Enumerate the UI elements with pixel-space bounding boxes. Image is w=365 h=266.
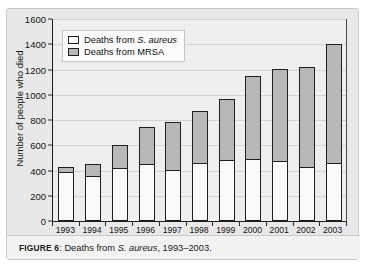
y-axis-tick-mark [48, 120, 52, 121]
y-axis-tick-label: 400 [13, 165, 46, 176]
x-axis-tick-label: 2001 [270, 225, 289, 235]
x-axis-tick-label: 1995 [109, 225, 128, 235]
bar-segment-aureus [58, 173, 74, 221]
bar-segment-mrsa [139, 127, 155, 166]
bar-segment-aureus [272, 162, 288, 221]
y-axis-tick-label: 0 [13, 216, 46, 227]
bar-group [294, 19, 321, 221]
bar-segment-mrsa [219, 99, 235, 161]
figure-panel: Number of people who died 02004006008001… [6, 8, 359, 260]
y-axis-tick-labels: 02004006008001000120014001600 [13, 19, 46, 221]
x-axis-tick-label: 1998 [189, 225, 208, 235]
figure-caption: FIGURE 6: Deaths from S. aureus, 1993–20… [7, 243, 212, 253]
figure-caption-bar: FIGURE 6: Deaths from S. aureus, 1993–20… [7, 235, 360, 259]
bar-segment-aureus [85, 177, 101, 221]
bar-stack [112, 145, 128, 221]
y-axis-tick-mark [48, 221, 52, 222]
x-axis-tick-label: 1996 [136, 225, 155, 235]
bar-group [267, 19, 294, 221]
bar-segment-aureus [326, 164, 342, 221]
legend-label-mrsa: Deaths from MRSA [84, 47, 164, 57]
bar-segment-aureus [245, 160, 261, 221]
y-axis-tick-mark [48, 69, 52, 70]
bar-stack [165, 122, 181, 221]
legend-item-mrsa: Deaths from MRSA [68, 46, 177, 58]
page-top-crop-artifact [0, 0, 365, 7]
bar-segment-mrsa [299, 67, 315, 168]
y-axis-tick-mark [48, 170, 52, 171]
y-axis-tick-label: 800 [13, 115, 46, 126]
bar-stack [326, 44, 342, 221]
bar-group [213, 19, 240, 221]
y-axis-tick-label: 1000 [13, 89, 46, 100]
bar-group [240, 19, 267, 221]
x-axis-tick-mark [346, 222, 347, 226]
bar-stack [85, 164, 101, 221]
bar-segment-mrsa [165, 122, 181, 171]
bar-segment-aureus [165, 171, 181, 221]
bar-segment-mrsa [326, 44, 342, 164]
bar-stack [58, 167, 74, 221]
bar-segment-aureus [299, 168, 315, 221]
bar-chart: Number of people who died 02004006008001… [7, 9, 360, 237]
bar-group [187, 19, 214, 221]
y-axis-tick-label: 200 [13, 190, 46, 201]
y-axis-tick-mark [48, 44, 52, 45]
bar-stack [192, 111, 208, 221]
bar-stack [245, 76, 261, 221]
bar-segment-aureus [112, 169, 128, 221]
y-axis-tick-label: 1200 [13, 64, 46, 75]
bar-segment-mrsa [245, 76, 261, 161]
y-axis-tick-mark [48, 145, 52, 146]
y-axis-tick-mark [48, 19, 52, 20]
legend-swatch-aureus [68, 36, 79, 44]
legend-swatch-mrsa [68, 48, 79, 56]
bar-stack [139, 127, 155, 221]
x-axis-tick-label: 2000 [243, 225, 262, 235]
y-axis-tick-label: 600 [13, 140, 46, 151]
y-axis-tick-label: 1400 [13, 39, 46, 50]
plot-right-rule [346, 19, 347, 222]
bar-segment-mrsa [272, 69, 288, 162]
bar-stack [219, 99, 235, 221]
bar-segment-aureus [139, 165, 155, 221]
x-axis-tick-label: 2002 [296, 225, 315, 235]
bar-segment-aureus [219, 161, 235, 221]
bar-segment-mrsa [192, 111, 208, 163]
bar-segment-mrsa [85, 164, 101, 177]
legend-item-aureus: Deaths from S. aureus [68, 34, 177, 46]
bar-stack [299, 67, 315, 221]
y-axis-tick-mark [48, 195, 52, 196]
bar-stack [272, 69, 288, 221]
chart-legend: Deaths from S. aureus Deaths from MRSA [62, 30, 185, 62]
y-axis-tick-label: 1600 [13, 14, 46, 25]
y-axis-tick-mark [48, 94, 52, 95]
bar-segment-aureus [192, 164, 208, 221]
bar-segment-mrsa [112, 145, 128, 170]
x-axis-tick-label: 1993 [56, 225, 75, 235]
x-axis-tick-label: 1997 [163, 225, 182, 235]
x-axis-tick-label: 1994 [83, 225, 102, 235]
x-axis-tick-label: 2003 [323, 225, 342, 235]
legend-label-aureus: Deaths from S. aureus [84, 35, 177, 45]
bar-group [320, 19, 347, 221]
x-axis-tick-label: 1999 [216, 225, 235, 235]
